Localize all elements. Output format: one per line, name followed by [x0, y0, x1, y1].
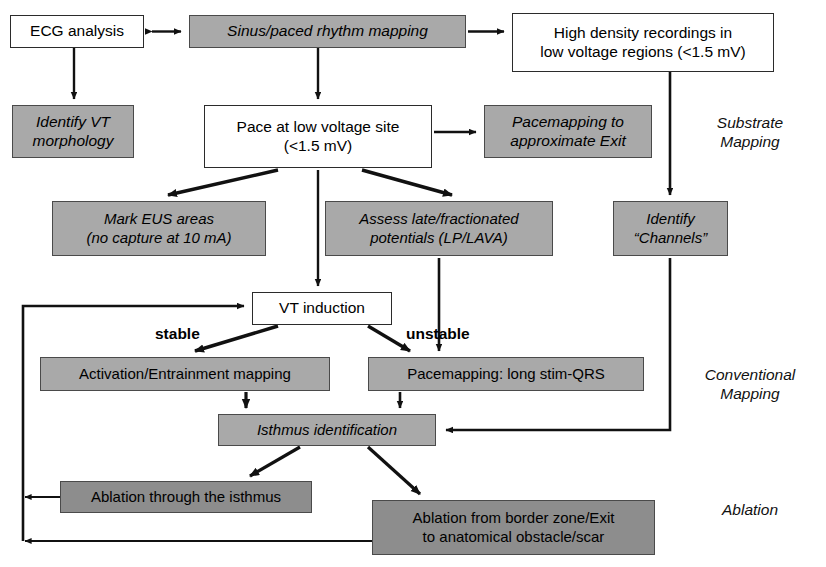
phase-label-ablation: Ablation	[690, 500, 810, 519]
phase-label-substrate-mapping: Substrate Mapping	[690, 113, 810, 152]
node-label: Assess late/fractionated potentials (LP/…	[354, 210, 523, 247]
node-ablation-from-border-zone: Ablation from border zone/Exit to anatom…	[372, 500, 655, 555]
node-vt-induction: VT induction	[252, 292, 392, 325]
node-label: Ablation through the isthmus	[86, 488, 286, 506]
edge-label-text: unstable	[406, 325, 470, 342]
node-label: Identify VT morphology	[28, 113, 119, 151]
edge-vtinduction-unstable	[368, 326, 410, 351]
edge-label-stable: stable	[155, 325, 200, 343]
node-identify-channels: Identify “Channels”	[613, 201, 728, 256]
node-label: Pacemapping to approximate Exit	[505, 113, 630, 151]
node-assess-late-fractionated-potentials: Assess late/fractionated potentials (LP/…	[325, 201, 553, 256]
edge-pace-to-markeus	[168, 170, 278, 195]
node-ablation-through-the-isthmus: Ablation through the isthmus	[60, 481, 312, 513]
edge-isthmus-to-ablation-border	[368, 447, 420, 494]
edge-isthmus-to-ablation-isthmus	[250, 447, 300, 476]
node-isthmus-identification: Isthmus identification	[218, 414, 436, 446]
edge-vtinduction-stable	[195, 326, 278, 351]
edge-label-text: stable	[155, 325, 200, 342]
node-label: Sinus/paced rhythm mapping	[222, 22, 433, 41]
edge-pace-to-assesslate	[362, 170, 452, 195]
node-label: Pacemapping: long stim-QRS	[402, 365, 610, 383]
node-label: Ablation from border zone/Exit to anatom…	[408, 509, 620, 546]
node-identify-vt-morphology: Identify VT morphology	[12, 105, 134, 158]
node-label: Identify “Channels”	[629, 210, 712, 247]
edge-label-unstable: unstable	[406, 325, 470, 343]
node-sinus-paced-rhythm-mapping: Sinus/paced rhythm mapping	[189, 15, 466, 48]
phase-label-conventional-mapping: Conventional Mapping	[680, 365, 820, 404]
edge-channels-to-isthmus	[446, 258, 670, 430]
node-label: ECG analysis	[25, 22, 129, 41]
node-pacemapping-approximate-exit: Pacemapping to approximate Exit	[484, 105, 652, 158]
node-mark-eus-areas: Mark EUS areas (no capture at 10 mA)	[52, 201, 266, 256]
node-ecg-analysis: ECG analysis	[10, 15, 144, 48]
node-pace-at-low-voltage-site: Pace at low voltage site (<1.5 mV)	[204, 105, 432, 168]
node-pacemapping-long-stim-qrs: Pacemapping: long stim-QRS	[368, 357, 644, 391]
node-label: Activation/Entrainment mapping	[74, 365, 296, 383]
node-label: Isthmus identification	[252, 421, 402, 439]
node-label: High density recordings in low voltage r…	[535, 24, 750, 62]
node-high-density-recordings: High density recordings in low voltage r…	[512, 13, 774, 72]
node-label: VT induction	[274, 299, 370, 318]
node-activation-entrainment-mapping: Activation/Entrainment mapping	[40, 357, 330, 391]
node-label: Mark EUS areas (no capture at 10 mA)	[81, 210, 236, 247]
node-label: Pace at low voltage site (<1.5 mV)	[232, 118, 405, 156]
